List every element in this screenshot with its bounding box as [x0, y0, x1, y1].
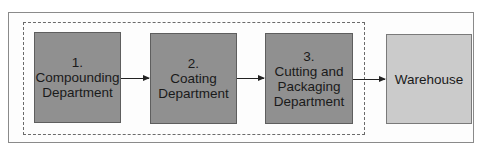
node-compounding-department: 1. Compounding Department — [34, 32, 121, 123]
node-warehouse: Warehouse — [386, 34, 472, 124]
node-label: 1. Compounding Department — [35, 55, 119, 100]
node-coating-department: 2. Coating Department — [150, 33, 237, 124]
node-label: 3. Cutting and Packaging Department — [274, 49, 345, 109]
arrow-compounding-to-coating — [121, 78, 149, 79]
node-label: Warehouse — [395, 72, 464, 87]
node-label: 2. Coating Department — [158, 56, 229, 101]
arrow-coating-to-cutting — [237, 78, 264, 79]
arrow-cutting-to-warehouse — [353, 79, 385, 80]
node-cutting-packaging-department: 3. Cutting and Packaging Department — [265, 33, 353, 124]
